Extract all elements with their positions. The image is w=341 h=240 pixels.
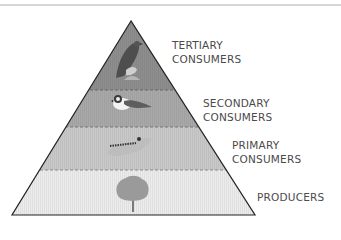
label-secondary-consumers: SECONDARY CONSUMERS <box>203 96 272 124</box>
label-tertiary-consumers: TERTIARY CONSUMERS <box>172 38 241 66</box>
tier-tertiary <box>0 20 341 90</box>
label-producers: PRODUCERS <box>257 190 324 204</box>
label-primary-consumers: PRIMARY CONSUMERS <box>232 138 301 166</box>
